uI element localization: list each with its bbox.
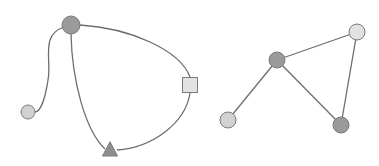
edge-center-top-right — [277, 32, 357, 60]
node-bottom-left-circle — [220, 112, 236, 128]
edge-hub-square — [80, 25, 190, 77]
node-hub-circle — [62, 16, 80, 34]
edge-top-right-bottom-right — [341, 32, 357, 125]
edge-hub-leaf — [35, 27, 64, 112]
node-center-circle — [269, 52, 285, 68]
node-square-square — [183, 78, 198, 93]
straight-graph — [220, 24, 365, 133]
edge-hub-triangle — [71, 34, 105, 149]
node-top-right-circle — [349, 24, 365, 40]
curved-graph — [21, 16, 198, 156]
node-bottom-right-circle — [333, 117, 349, 133]
edge-center-bottom-left — [228, 60, 277, 120]
node-leaf-circle — [21, 105, 35, 119]
graph-canvas — [0, 0, 379, 166]
edge-square-triangle — [117, 93, 190, 150]
edge-center-bottom-right — [277, 60, 341, 125]
